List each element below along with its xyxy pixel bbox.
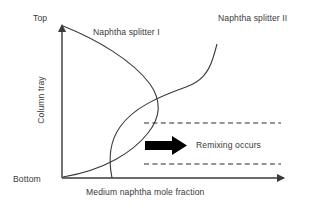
y-axis-title: Column tray xyxy=(36,76,46,123)
curve-naphtha-splitter-2 xyxy=(110,44,217,178)
remixing-block-arrow xyxy=(145,136,187,155)
y-axis-top-label: Top xyxy=(33,13,47,23)
curve-label-naphtha-splitter-1: Naphtha splitter I xyxy=(93,27,160,37)
y-axis-bottom-label: Bottom xyxy=(13,174,41,184)
x-axis-title: Medium naphtha mole fraction xyxy=(86,187,204,197)
figure-container: Top Bottom Column tray Medium naphtha mo… xyxy=(0,0,311,207)
remixing-occurs-label: Remixing occurs xyxy=(196,140,261,150)
curve-label-naphtha-splitter-2: Naphtha splitter II xyxy=(218,13,287,23)
